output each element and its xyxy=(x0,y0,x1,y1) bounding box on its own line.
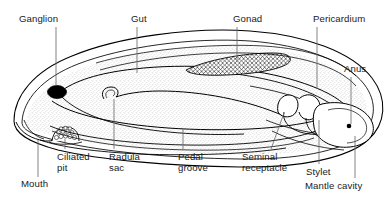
label-pericardium: Pericardium xyxy=(313,13,365,24)
label-anus: Anus xyxy=(344,63,366,74)
anus-point xyxy=(347,124,352,129)
label-radula-sac: Radulasac xyxy=(109,151,140,173)
ganglion-blob xyxy=(48,86,67,99)
label-ganglion: Ganglion xyxy=(19,13,58,24)
label-ciliated-pit: Ciliatedpit xyxy=(57,151,90,173)
label-mantle-cavity: Mantle cavity xyxy=(305,180,362,191)
label-gut: Gut xyxy=(131,13,147,24)
anatomy-figure: Ganglion Gut Gonad Pericardium Anus Cili… xyxy=(0,0,392,203)
label-gonad: Gonad xyxy=(233,13,262,24)
label-mouth: Mouth xyxy=(21,178,48,189)
label-seminal-receptacle: Seminalreceptacle xyxy=(242,151,287,173)
seminal-receptacle-lobe xyxy=(278,95,298,117)
label-pedal-groove: Pedalgroove xyxy=(178,151,208,173)
label-stylet: Stylet xyxy=(306,166,331,177)
